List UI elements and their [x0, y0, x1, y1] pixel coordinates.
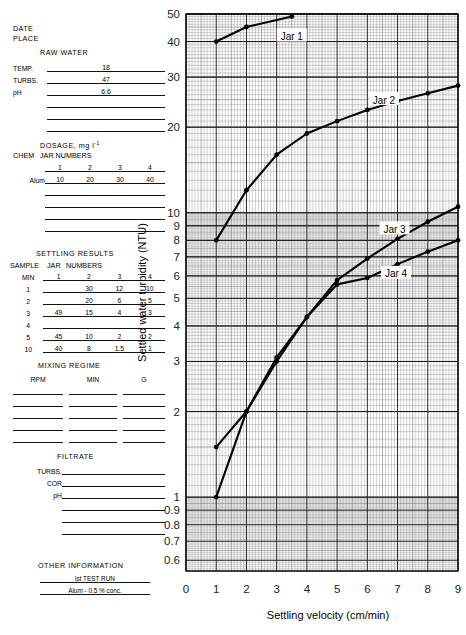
y-axis-tick-labels: 0.60.70.80.91234567891020304050	[164, 8, 181, 566]
y-tick-label: 3	[174, 355, 180, 367]
data-point	[214, 39, 219, 44]
x-tick-label: 0	[183, 583, 189, 595]
y-tick-label: 10	[167, 207, 180, 219]
data-point	[335, 119, 340, 124]
data-point	[456, 238, 461, 243]
series-label-jar-3: Jar 3	[383, 224, 406, 235]
y-tick-label: 20	[167, 121, 180, 133]
y-tick-label: 40	[167, 36, 180, 48]
y-tick-label: 0.6	[164, 554, 180, 566]
data-point	[214, 445, 219, 450]
x-tick-label: 9	[455, 583, 461, 595]
y-tick-label: 9	[174, 220, 180, 232]
x-axis-tick-labels: 0123456789	[183, 583, 461, 595]
y-tick-label: 0.7	[164, 535, 180, 547]
data-point	[425, 249, 430, 254]
settling-velocity-chart: 0.60.70.80.91234567891020304050 01234567…	[0, 0, 466, 635]
y-tick-label: 4	[174, 320, 181, 332]
data-point	[214, 238, 219, 243]
data-point	[425, 91, 430, 96]
x-tick-label: 5	[334, 583, 340, 595]
data-point	[244, 25, 249, 30]
data-point	[365, 276, 370, 281]
data-point	[335, 282, 340, 287]
y-tick-label: 0.9	[164, 504, 180, 516]
data-point	[335, 278, 340, 283]
data-point	[456, 83, 461, 88]
data-point	[304, 131, 309, 136]
data-point	[395, 262, 400, 267]
data-point	[289, 14, 294, 19]
x-tick-label: 6	[364, 583, 370, 595]
data-point	[274, 152, 279, 157]
y-tick-label: 6	[174, 270, 180, 282]
data-point	[274, 355, 279, 360]
y-tick-label: 7	[174, 251, 180, 263]
data-point	[365, 256, 370, 261]
data-point	[456, 204, 461, 209]
y-tick-label: 1	[174, 491, 180, 503]
series-label-jar-2: Jar 2	[373, 95, 396, 106]
data-point	[244, 188, 249, 193]
data-point	[244, 409, 249, 414]
x-tick-label: 3	[273, 583, 279, 595]
series-label-jar-4: Jar 4	[385, 268, 408, 279]
x-tick-label: 8	[425, 583, 431, 595]
data-point	[214, 495, 219, 500]
x-tick-label: 2	[243, 583, 249, 595]
y-tick-label: 8	[174, 234, 180, 246]
data-point	[425, 219, 430, 224]
y-tick-label: 0.8	[164, 519, 180, 531]
x-tick-label: 4	[304, 583, 311, 595]
x-tick-label: 7	[394, 583, 400, 595]
x-tick-label: 1	[213, 583, 219, 595]
y-tick-label: 5	[174, 292, 180, 304]
chart-grid-mid	[186, 14, 458, 571]
y-axis-title: Settled water turbidity (NTU)	[136, 223, 148, 362]
y-tick-label: 50	[167, 8, 180, 20]
data-point	[365, 108, 370, 113]
series-label-jar-1: Jar 1	[281, 31, 304, 42]
x-axis-title: Settling velocity (cm/min)	[267, 609, 389, 621]
data-point	[395, 236, 400, 241]
y-tick-label: 2	[174, 406, 180, 418]
y-tick-label: 30	[167, 71, 180, 83]
data-point	[304, 315, 309, 320]
